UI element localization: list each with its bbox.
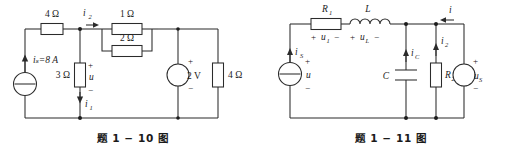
wire-parallel-bottom-left — [102, 29, 112, 51]
node-bottom-r2 — [434, 116, 438, 120]
label-u-plus: + — [305, 56, 310, 66]
figure-1-10: iₛ=8 A 4 Ω i 2 3 Ω + u − i 1 1 Ω 2 Ω — [0, 0, 258, 160]
current-arrow-head-i2 — [433, 43, 439, 50]
current-arrow-head-is — [287, 48, 293, 55]
node-top-middle — [78, 27, 82, 31]
current-arrow-head-i2 — [93, 22, 99, 27]
label-resistor-1ohm: 1 Ω — [120, 9, 134, 19]
label-resistor-r1-sub: 1 — [329, 9, 332, 16]
wire-parallel-bottom-right — [142, 29, 152, 51]
label-2v-plus: + — [188, 56, 193, 66]
label-resistor-4ohm-top: 4 Ω — [45, 9, 59, 19]
label-us-minus: − — [473, 83, 478, 93]
node-bottom-vsource — [176, 116, 180, 120]
label-ul-plus: + — [350, 32, 355, 42]
voltage-source-symbol-2v — [167, 64, 189, 86]
label-resistor-r2: R — [444, 70, 451, 80]
label-current-ic: i — [411, 48, 414, 58]
node-bottom-middle — [78, 116, 82, 120]
label-ul-minus: − — [374, 32, 379, 42]
label-current-ic-sub: C — [415, 53, 420, 60]
label-current-i2-sub: 2 — [89, 13, 93, 20]
label-u: u — [306, 70, 311, 80]
label-capacitor-c: C — [383, 71, 390, 81]
circuit-diagram-1-11: i S + u − R 1 + u 1 − L + u L − — [258, 0, 516, 128]
inductor-l-symbol — [350, 19, 390, 24]
resistor-r1 — [311, 19, 341, 30]
label-u1-plus: + — [311, 32, 316, 42]
label-source-current: iₛ=8 A — [33, 55, 58, 65]
node-top-r2 — [434, 22, 438, 26]
label-current-i2: i — [441, 36, 444, 46]
label-current-i1: i — [85, 99, 88, 109]
label-current-i2-sub: 2 — [445, 41, 449, 48]
current-arrow-head-is — [22, 55, 28, 62]
label-resistor-3ohm: 3 Ω — [56, 70, 70, 80]
label-current-i2: i — [83, 8, 86, 18]
label-ul-sub: L — [365, 37, 370, 44]
resistor-r2 — [431, 63, 442, 87]
node-top-vsource — [176, 27, 180, 31]
label-voltage-source-us-sub: S — [479, 76, 483, 83]
label-u: u — [89, 72, 94, 82]
label-inductor-l: L — [364, 4, 370, 14]
label-u-plus: + — [88, 60, 93, 70]
voltage-source-symbol-us — [453, 64, 475, 86]
label-us-plus: + — [473, 56, 478, 66]
label-ul: u — [360, 32, 365, 42]
label-u-minus: − — [88, 85, 93, 95]
label-resistor-r1: R — [321, 4, 328, 14]
label-resistor-4ohm-right: 4 Ω — [228, 70, 242, 80]
figure-page: iₛ=8 A 4 Ω i 2 3 Ω + u − i 1 1 Ω 2 Ω — [0, 0, 516, 160]
figure-caption-1-10: 题 1 − 10 图 — [4, 130, 262, 145]
label-u1: u — [321, 32, 326, 42]
label-voltage-source-2v: 2 V — [187, 71, 201, 81]
label-2v-minus: − — [188, 83, 193, 93]
label-current-i: i — [449, 5, 452, 15]
current-arrow-head-i1 — [77, 97, 83, 104]
figure-1-11: i S + u − R 1 + u 1 − L + u L − — [258, 0, 516, 160]
resistor-2ohm — [112, 46, 142, 57]
label-source-current-sub: S — [300, 52, 304, 59]
label-u-minus: − — [305, 83, 310, 93]
label-current-i1-sub: 1 — [90, 104, 93, 111]
label-u1-sub: 1 — [327, 37, 330, 44]
label-source-current: i — [295, 47, 298, 57]
current-arrow-head-ic — [403, 49, 409, 56]
resistor-4ohm-top — [41, 24, 63, 35]
current-arrow-head-i — [440, 17, 446, 22]
node-top-capacitor — [404, 22, 408, 26]
resistor-4ohm-right — [213, 63, 224, 87]
label-u1-minus: − — [334, 32, 339, 42]
resistor-3ohm — [75, 63, 86, 87]
circuit-diagram-1-10: iₛ=8 A 4 Ω i 2 3 Ω + u − i 1 1 Ω 2 Ω — [0, 0, 258, 128]
figure-caption-1-11: 题 1 − 11 图 — [262, 130, 516, 145]
node-bottom-capacitor — [404, 116, 408, 120]
label-resistor-2ohm: 2 Ω — [120, 33, 134, 43]
